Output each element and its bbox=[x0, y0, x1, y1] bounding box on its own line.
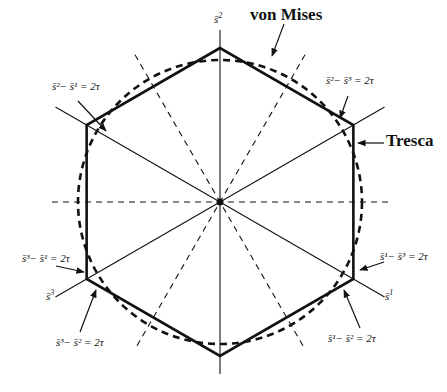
eq-s2-minus-s3: s̄²− s̄³ = 2τ bbox=[326, 74, 375, 86]
yield-surface-diagram: s̄2 s̄1 s̄3 von Mises Tresca s̄²− s̄¹ = … bbox=[0, 0, 447, 392]
eq-s2-minus-s1: s̄²− s̄¹ = 2τ bbox=[52, 80, 101, 92]
von-mises-arrow bbox=[272, 24, 284, 56]
eq-s1-minus-s3: s̄¹− s̄³ = 2τ bbox=[380, 250, 429, 262]
von-mises-label: von Mises bbox=[250, 5, 323, 24]
eq-s3-minus-s2: s̄³− s̄² = 2τ bbox=[56, 336, 105, 348]
axis-label-s1: s̄1 bbox=[385, 288, 393, 302]
axis-label-s2: s̄2 bbox=[214, 11, 222, 25]
eq-s1-minus-s3-arrow bbox=[360, 262, 384, 270]
eq-s3-minus-s1-arrow bbox=[56, 266, 84, 272]
eq-s3-minus-s2-arrow bbox=[80, 290, 96, 332]
axis-label-s3: s̄3 bbox=[46, 288, 54, 302]
origin-point bbox=[217, 199, 224, 206]
eq-s1-minus-s2: s̄¹− s̄² = 2τ bbox=[328, 332, 377, 344]
eq-s1-minus-s2-arrow bbox=[344, 290, 360, 328]
eq-s2-minus-s3-arrow bbox=[340, 96, 348, 118]
eq-s3-minus-s1: s̄³− s̄¹ = 2τ bbox=[22, 252, 71, 264]
tresca-label: Tresca bbox=[386, 131, 434, 150]
